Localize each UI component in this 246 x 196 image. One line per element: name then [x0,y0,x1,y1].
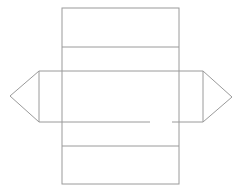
main-vertical-strip [62,8,179,184]
triangle-right-face [203,71,232,122]
triangle-left-face [10,71,39,122]
prism-net-diagram [0,0,246,196]
